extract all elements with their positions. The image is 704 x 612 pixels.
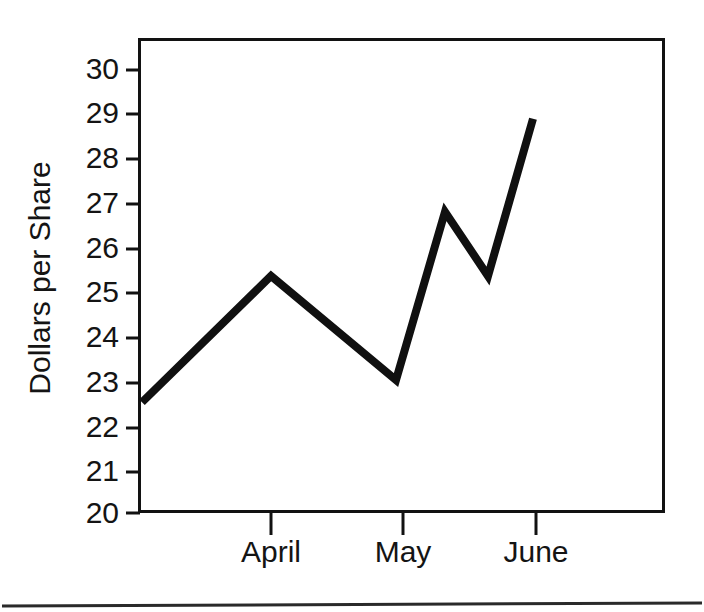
y-axis-tick-labels: 30 29 28 27 26 25 24 23 22 21 20 — [86, 52, 119, 529]
x-tick-label-april: April — [241, 535, 301, 568]
y-tick-label-21: 21 — [86, 454, 119, 487]
x-axis-tick-labels: April May June — [241, 535, 569, 568]
y-axis-title: Dollars per Share — [23, 161, 56, 394]
data-series-line — [142, 119, 533, 403]
y-tick-label-23: 23 — [86, 365, 119, 398]
y-tick-label-22: 22 — [86, 410, 119, 443]
x-axis-ticks — [271, 512, 536, 535]
plot-frame — [140, 40, 664, 512]
x-tick-label-june: June — [503, 535, 568, 568]
x-tick-label-may: May — [375, 535, 432, 568]
y-tick-label-27: 27 — [86, 186, 119, 219]
y-tick-label-20: 20 — [86, 496, 119, 529]
y-tick-label-29: 29 — [86, 96, 119, 129]
y-tick-label-28: 28 — [86, 141, 119, 174]
y-tick-label-26: 26 — [86, 231, 119, 264]
line-chart-canvas: 30 29 28 27 26 25 24 23 22 21 20 Dollars… — [0, 0, 704, 612]
y-tick-label-25: 25 — [86, 275, 119, 308]
y-tick-label-24: 24 — [86, 320, 119, 353]
y-axis-ticks — [126, 70, 140, 513]
footer-rule — [2, 603, 702, 606]
y-tick-label-30: 30 — [86, 52, 119, 85]
chart-figure: 30 29 28 27 26 25 24 23 22 21 20 Dollars… — [0, 0, 704, 612]
